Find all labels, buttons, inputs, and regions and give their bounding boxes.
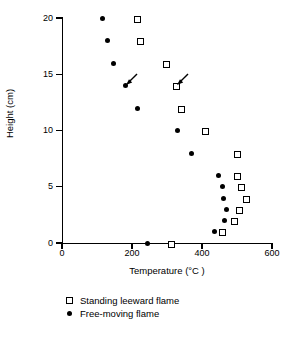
x-tick-label: 0 — [42, 249, 82, 258]
data-point-free-moving-flame — [220, 184, 225, 189]
data-point-free-moving-flame — [100, 16, 105, 21]
y-tick-label: 10 — [26, 126, 53, 135]
scatter-chart-figure: 05101520 0200400600 Temperature (°C ) He… — [0, 0, 293, 340]
data-point-standing-leeward-flame — [234, 173, 241, 180]
data-point-standing-leeward-flame — [134, 16, 141, 23]
x-tick-label: 600 — [252, 249, 292, 258]
x-axis-line — [61, 243, 273, 244]
data-point-free-moving-flame — [135, 106, 140, 111]
data-point-free-moving-flame — [221, 196, 226, 201]
open-square-icon — [66, 297, 80, 304]
legend-item-label: Standing leeward flame — [80, 295, 179, 306]
data-point-free-moving-flame — [224, 207, 229, 212]
data-point-standing-leeward-flame — [219, 229, 226, 236]
legend-item: Free-moving flame — [66, 307, 179, 320]
data-point-standing-leeward-flame — [202, 128, 209, 135]
y-tick-label: 15 — [26, 70, 53, 79]
plot-area — [62, 18, 272, 243]
data-point-standing-leeward-flame — [238, 184, 245, 191]
data-point-free-moving-flame — [216, 173, 221, 178]
annotation-arrow-icon — [124, 73, 138, 87]
filled-circle-icon — [66, 311, 80, 317]
x-tick-label: 400 — [182, 249, 222, 258]
data-point-free-moving-flame — [145, 241, 150, 246]
x-tick-label: 200 — [112, 249, 152, 258]
data-point-standing-leeward-flame — [231, 218, 238, 225]
legend-item-label: Free-moving flame — [80, 308, 159, 319]
data-point-standing-leeward-flame — [243, 196, 250, 203]
data-point-free-moving-flame — [212, 229, 217, 234]
data-point-free-moving-flame — [222, 218, 227, 223]
data-point-free-moving-flame — [189, 151, 194, 156]
data-point-standing-leeward-flame — [168, 241, 175, 248]
legend-item: Standing leeward flame — [66, 294, 179, 307]
data-point-standing-leeward-flame — [163, 61, 170, 68]
y-axis-title: Height (cm) — [4, 74, 15, 154]
data-point-standing-leeward-flame — [236, 207, 243, 214]
data-point-standing-leeward-flame — [137, 38, 144, 45]
data-point-standing-leeward-flame — [234, 151, 241, 158]
y-tick-label: 20 — [26, 14, 53, 23]
y-tick-label: 5 — [26, 182, 53, 191]
y-tick-label: 0 — [26, 239, 53, 248]
data-point-standing-leeward-flame — [178, 106, 185, 113]
x-axis-title: Temperature (°C ) — [62, 265, 272, 276]
data-point-free-moving-flame — [111, 61, 116, 66]
data-point-free-moving-flame — [175, 128, 180, 133]
chart-legend: Standing leeward flameFree-moving flame — [66, 294, 179, 320]
annotation-arrow-icon — [175, 73, 189, 87]
data-point-free-moving-flame — [105, 38, 110, 43]
